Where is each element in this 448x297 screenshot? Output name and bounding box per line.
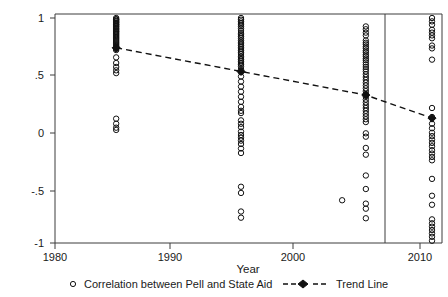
x-axis-ticks: [55, 243, 420, 249]
data-point: [363, 173, 368, 178]
data-point: [238, 190, 243, 195]
y-axis-ticks: [50, 18, 55, 243]
y-tick-label: 1: [38, 12, 44, 24]
legend-label-correlation: Correlation between Pell and State Aid: [84, 278, 272, 290]
y-tick-label: -1: [34, 237, 44, 249]
data-point: [238, 215, 243, 220]
data-point: [429, 158, 434, 163]
x-tick-label: 2000: [281, 251, 305, 263]
x-tick-label: 1990: [158, 251, 182, 263]
x-tick-label: 2010: [408, 251, 432, 263]
legend-label-trend-line: Trend Line: [336, 278, 388, 290]
chart-figure: 1 .5 0 -.5 -1 1980 1990 2000 2010 Year: [0, 0, 448, 297]
data-point: [363, 152, 368, 157]
data-point: [429, 202, 434, 207]
chart-legend: Correlation between Pell and State Aid T…: [70, 278, 388, 290]
data-point: [113, 55, 118, 60]
trend-line-layer: [112, 44, 436, 122]
scatter-plot: 1 .5 0 -.5 -1 1980 1990 2000 2010 Year: [0, 0, 448, 297]
data-point: [429, 105, 434, 110]
x-axis-labels: 1980 1990 2000 2010: [43, 251, 432, 263]
y-axis-labels: 1 .5 0 -.5 -1: [31, 12, 44, 249]
x-tick-label: 1980: [43, 251, 67, 263]
data-point: [429, 57, 434, 62]
y-tick-label: -.5: [31, 185, 44, 197]
x-axis-title: Year: [236, 263, 259, 275]
trend-marker: [428, 114, 436, 122]
y-tick-label: 0: [38, 127, 44, 139]
data-point: [363, 134, 368, 139]
data-point: [363, 145, 368, 150]
data-point: [429, 176, 434, 181]
data-point: [363, 186, 368, 191]
data-point: [429, 193, 434, 198]
legend-dashed-diamond-icon: [283, 280, 327, 288]
data-point: [238, 184, 243, 189]
legend-open-circle-icon: [70, 281, 75, 286]
data-point: [339, 198, 344, 203]
data-points-layer: [113, 15, 434, 243]
data-point: [238, 209, 243, 214]
data-point: [363, 216, 368, 221]
y-tick-label: .5: [35, 69, 44, 81]
